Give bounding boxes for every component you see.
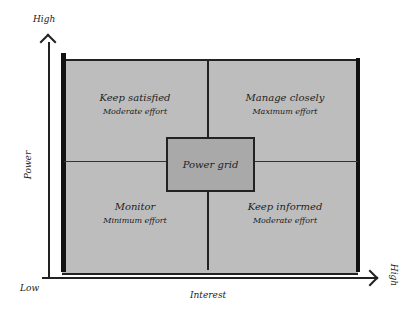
- arrow-right-icon: [362, 270, 379, 287]
- quadrant-manage-closely: Manage closely Maximum effort: [225, 92, 345, 116]
- y-axis-title: Power: [23, 151, 33, 179]
- y-axis-power: [48, 42, 50, 278]
- quadrant-monitor: Monitor Minimum effort: [80, 201, 190, 225]
- quadrant-keep-satisfied: Keep satisfied Moderate effort: [80, 92, 190, 116]
- arrow-up-icon: [40, 34, 57, 51]
- x-axis-title: Interest: [190, 290, 226, 300]
- quadrant-title: Monitor: [80, 201, 190, 212]
- grid-left-border: [61, 53, 66, 272]
- quadrant-title: Keep satisfied: [80, 92, 190, 103]
- quadrant-subtitle: Moderate effort: [225, 216, 345, 225]
- y-axis-high-label: High: [33, 14, 55, 24]
- quadrant-subtitle: Maximum effort: [225, 107, 345, 116]
- quadrant-keep-informed: Keep informed Moderate effort: [225, 201, 345, 225]
- power-grid-center: Power grid: [166, 137, 255, 192]
- x-axis-interest: [42, 277, 378, 279]
- center-label: Power grid: [183, 159, 239, 170]
- axis-low-label: Low: [20, 283, 39, 293]
- grid-right-border: [356, 58, 360, 272]
- quadrant-subtitle: Minimum effort: [80, 216, 190, 225]
- quadrant-subtitle: Moderate effort: [80, 107, 190, 116]
- quadrant-title: Keep informed: [225, 201, 345, 212]
- quadrant-title: Manage closely: [225, 92, 345, 103]
- x-axis-high-label: High: [389, 264, 399, 286]
